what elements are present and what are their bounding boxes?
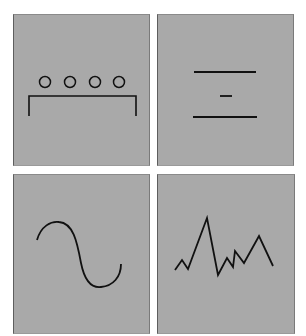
circles-group [40, 77, 125, 88]
circle-icon [90, 77, 101, 88]
sine-curve [37, 222, 121, 287]
zigzag-line [175, 218, 273, 275]
three-lines-drawing [158, 15, 295, 167]
lines-group [193, 72, 257, 117]
circle-icon [40, 77, 51, 88]
circle-icon [65, 77, 76, 88]
sine-wave-drawing [14, 175, 151, 335]
panel-sine-wave [13, 174, 150, 334]
panel-circles-bracket [13, 14, 150, 166]
circles-bracket-drawing [14, 15, 151, 167]
panel-three-lines [157, 14, 294, 166]
bracket-shape [29, 96, 136, 116]
zigzag-drawing [158, 175, 296, 335]
circle-icon [114, 77, 125, 88]
panel-zigzag [157, 174, 295, 334]
